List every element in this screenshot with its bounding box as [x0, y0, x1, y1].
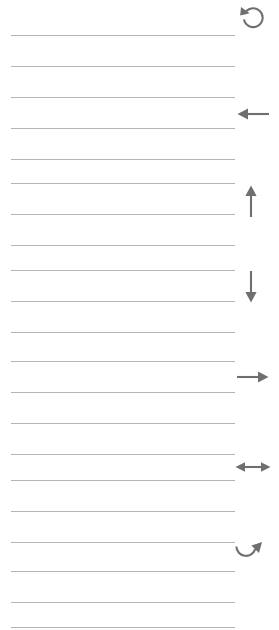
ruled-line — [11, 301, 235, 302]
ruled-line — [11, 480, 235, 481]
ruled-line — [11, 627, 235, 628]
arrow-right-icon[interactable] — [236, 363, 270, 391]
arrow-up-icon[interactable] — [240, 184, 262, 218]
ruled-line — [11, 214, 235, 215]
ruled-line — [11, 392, 235, 393]
ruled-line — [11, 159, 235, 160]
ruled-line — [11, 128, 235, 129]
arrow-left-right-icon[interactable] — [234, 453, 272, 481]
ruled-line — [11, 511, 235, 512]
ruled-line — [11, 423, 235, 424]
arrow-left-icon[interactable] — [236, 100, 270, 128]
ruled-line — [11, 361, 235, 362]
ruled-page-canvas — [0, 0, 279, 630]
ruled-line — [11, 97, 235, 98]
ruled-line — [11, 602, 235, 603]
rotate-clockwise-icon[interactable] — [233, 540, 265, 568]
ruled-line — [11, 245, 235, 246]
ruled-line — [11, 542, 235, 543]
ruled-line — [11, 35, 235, 36]
ruled-line — [11, 183, 235, 184]
arrow-down-icon[interactable] — [240, 270, 262, 304]
ruled-line — [11, 332, 235, 333]
rotate-counterclockwise-icon[interactable] — [239, 3, 267, 31]
ruled-line — [11, 571, 235, 572]
ruled-line — [11, 66, 235, 67]
ruled-line — [11, 270, 235, 271]
ruled-line — [11, 454, 235, 455]
